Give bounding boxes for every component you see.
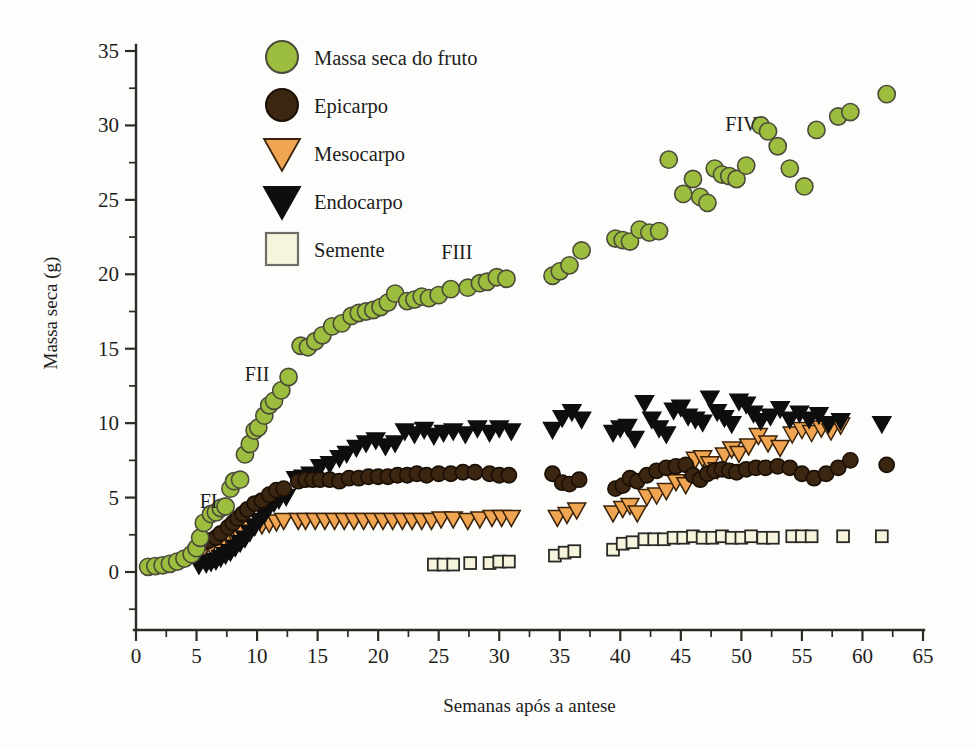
x-tick-label: 55 — [791, 644, 812, 668]
y-tick-label: 5 — [109, 486, 120, 510]
legend-label: Epicarpo — [314, 95, 388, 118]
y-tick-label: 0 — [109, 560, 120, 584]
legend-item-semente[interactable]: Semente — [266, 233, 385, 265]
x-tick-label: 0 — [131, 644, 142, 668]
y-axis-title: Massa seca (g) — [40, 257, 62, 370]
x-tick-label: 15 — [307, 644, 328, 668]
data-point — [502, 424, 520, 440]
y-tick-label: 10 — [98, 411, 119, 435]
x-axis-title: Semanas após a antese — [443, 695, 616, 716]
data-point — [771, 440, 789, 456]
legend-label: Endocarpo — [314, 191, 403, 214]
data-points-group — [140, 86, 896, 576]
data-point — [498, 270, 515, 287]
legend-label: Mesocarpo — [314, 143, 405, 166]
legend-item-endocarpo[interactable]: Endocarpo — [264, 187, 403, 219]
x-tick-label: 20 — [368, 644, 389, 668]
x-tick-label: 65 — [913, 644, 934, 668]
data-point — [573, 242, 590, 259]
data-point — [280, 368, 297, 385]
data-point — [842, 103, 859, 120]
data-point — [879, 457, 894, 472]
data-point — [626, 536, 638, 548]
data-point — [660, 151, 677, 168]
phase-annotation-fii: FII — [245, 363, 269, 385]
x-tick-label: 45 — [670, 644, 691, 668]
data-point — [675, 185, 692, 202]
data-point — [217, 498, 234, 515]
data-point — [561, 257, 578, 274]
legend-item-epicarpo[interactable]: Epicarpo — [266, 89, 388, 121]
data-point — [568, 545, 580, 557]
data-point — [573, 412, 591, 428]
y-tick-label: 30 — [98, 113, 119, 137]
y-tick-label: 20 — [98, 262, 119, 286]
data-point — [808, 121, 825, 138]
x-tick-label: 10 — [247, 644, 268, 668]
data-point — [781, 160, 798, 177]
data-point — [232, 471, 249, 488]
series-semente — [428, 530, 888, 570]
phase-annotation-fi: FI — [200, 490, 218, 512]
x-tick-label: 50 — [731, 644, 752, 668]
legend-label: Semente — [314, 239, 385, 261]
x-tick-label: 35 — [549, 644, 570, 668]
data-point — [873, 417, 891, 433]
data-point — [876, 530, 888, 542]
legend-marker-circle — [266, 89, 298, 121]
data-point — [806, 530, 818, 542]
phase-annotation-fiii: FIII — [441, 241, 472, 263]
data-point — [442, 281, 459, 298]
scatter-chart: 0510152025303505101520253035404550556065… — [0, 0, 976, 748]
data-point — [544, 423, 562, 439]
data-point — [501, 468, 516, 483]
data-point — [767, 532, 779, 544]
x-tick-label: 30 — [489, 644, 510, 668]
data-point — [650, 223, 667, 240]
legend-label: Massa seca do fruto — [314, 47, 477, 69]
data-point — [626, 432, 644, 448]
data-point — [447, 559, 459, 571]
legend-marker-triangle — [264, 139, 300, 171]
data-point — [843, 453, 858, 468]
legend-item-mesocarpo[interactable]: Mesocarpo — [264, 139, 405, 171]
phase-annotation-fiv: FIV — [725, 113, 758, 135]
x-tick-label: 60 — [852, 644, 873, 668]
data-point — [276, 481, 291, 496]
data-point — [738, 157, 755, 174]
data-point — [464, 557, 476, 569]
data-point — [699, 194, 716, 211]
legend-marker-square — [266, 233, 298, 265]
y-tick-label: 25 — [98, 188, 119, 212]
data-point — [467, 465, 482, 480]
data-point — [636, 396, 654, 412]
chart-legend: Massa seca do frutoEpicarpoMesocarpoEndo… — [264, 41, 477, 265]
figure-canvas: 0510152025303505101520253035404550556065… — [0, 0, 976, 748]
phase-annotations-group: FIFIIFIIIFIV — [200, 113, 758, 512]
data-point — [837, 530, 849, 542]
data-point — [456, 427, 474, 443]
legend-marker-triangle — [264, 187, 300, 219]
data-point — [572, 472, 587, 487]
legend-marker-circle — [266, 41, 298, 73]
y-tick-label: 35 — [98, 39, 119, 63]
data-point — [684, 170, 701, 187]
axes-group — [125, 45, 924, 641]
data-point — [878, 86, 895, 103]
x-tick-label: 25 — [428, 644, 449, 668]
x-tick-label: 5 — [191, 644, 202, 668]
data-point — [759, 123, 776, 140]
legend-item-massa-seca-do-fruto[interactable]: Massa seca do fruto — [266, 41, 477, 73]
x-tick-label: 40 — [610, 644, 631, 668]
data-point — [769, 138, 786, 155]
y-tick-label: 15 — [98, 337, 119, 361]
data-point — [796, 178, 813, 195]
data-point — [503, 556, 515, 568]
data-point — [745, 530, 757, 542]
